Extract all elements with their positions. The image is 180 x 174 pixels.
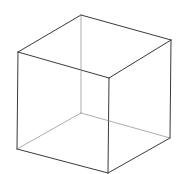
top-back-left-edge — [18, 15, 81, 52]
top-back-right-edge — [81, 15, 171, 40]
bottom-front-left-edge — [17, 149, 108, 173]
top-front-right-edge — [109, 40, 171, 78]
left-vertical-edge — [17, 52, 18, 149]
bottom-back-left-edge — [17, 113, 81, 149]
top-front-left-edge — [18, 52, 109, 78]
front-vertical-edge — [108, 78, 109, 173]
cube-diagram — [0, 0, 180, 174]
right-vertical-edge — [170, 40, 171, 138]
bottom-front-right-edge — [108, 138, 170, 173]
bottom-back-right-edge — [81, 113, 170, 138]
